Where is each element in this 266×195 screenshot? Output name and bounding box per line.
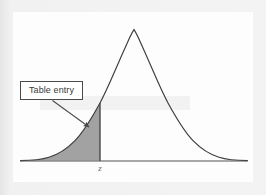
figure-container: Table entry z bbox=[0, 0, 266, 195]
z-axis-tick-label: z bbox=[93, 163, 107, 173]
table-entry-label: Table entry bbox=[29, 86, 74, 95]
callout-arrow bbox=[53, 101, 90, 128]
table-entry-callout: Table entry bbox=[20, 81, 83, 100]
